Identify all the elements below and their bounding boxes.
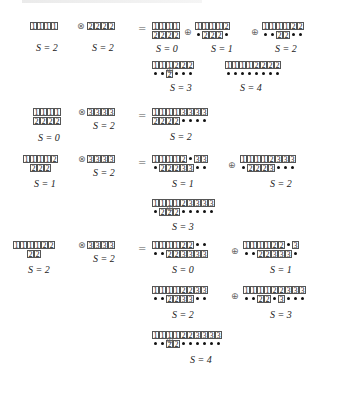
tableau-cell: 2 [173, 208, 180, 216]
direct-sum-symbol: ⊕ [184, 27, 192, 37]
tableau-cell: 3 [275, 155, 282, 163]
empty-dot [194, 295, 201, 303]
tableau-cell: 2 [261, 164, 268, 172]
tableau-cell: 1 [254, 155, 261, 163]
tableau-row: 11113333 [152, 108, 208, 117]
tableau-cell: 3 [194, 331, 201, 339]
tableau-row: 222 [152, 208, 215, 217]
empty-dot [201, 208, 208, 216]
tableau-cell: 3 [187, 199, 194, 207]
tableau-cell: 1 [247, 155, 254, 163]
tableau-cell: 2 [173, 250, 180, 258]
result-tableau: 111133332222 [152, 108, 208, 126]
tableau-cell: 1 [159, 241, 166, 249]
tableau-cell: 3 [268, 164, 275, 172]
tableau-cell: 3 [292, 241, 299, 249]
tableau-cell: 2 [33, 117, 40, 125]
empty-dot [180, 117, 187, 125]
tableau-cell: 2 [187, 61, 194, 69]
tableau-cell: 2 [44, 164, 51, 172]
tableau-cell: 1 [216, 22, 223, 30]
tableau-cell: 2 [260, 61, 267, 69]
tableau-cell: 1 [13, 241, 20, 249]
tableau-cell: 1 [246, 61, 253, 69]
tableau-cell: 1 [250, 286, 257, 294]
direct-sum-symbol: ⊕ [231, 246, 239, 256]
tableau-cell: 3 [201, 331, 208, 339]
tableau-row: 22 [152, 340, 222, 349]
tableau-cell: 2 [173, 117, 180, 125]
tableau-cell: 1 [152, 331, 159, 339]
tableau-row: 11112233 [152, 286, 208, 295]
tableau-cell: 2 [187, 241, 194, 249]
spin-label: S = 0 [172, 264, 194, 275]
tableau-row: 2222 [152, 31, 180, 40]
tableau-row: 2223 [240, 164, 296, 173]
empty-dot [232, 70, 239, 78]
lhs-tableau: 11112222 [13, 241, 55, 259]
lhs-tableau: 3333 [87, 108, 115, 117]
tableau-cell: 2 [34, 250, 41, 258]
tableau-cell: 1 [173, 22, 180, 30]
empty-dot [159, 295, 166, 303]
tableau-cell: 3 [187, 250, 194, 258]
empty-dot [194, 208, 201, 216]
direct-sum-symbol: ⊕ [231, 291, 239, 301]
lhs-tableau: 3333 [87, 155, 115, 164]
tableau-cell: 1 [44, 155, 51, 163]
tableau-cell: 2 [283, 31, 290, 39]
tableau-cell: 2 [276, 31, 283, 39]
tableau-cell: 2 [180, 241, 187, 249]
tableau-cell: 1 [166, 155, 173, 163]
tableau-row: 1111 [30, 22, 58, 31]
tableau-cell: 2 [202, 31, 209, 39]
empty-dot [201, 117, 208, 125]
lhs-tableau: 11112222 [33, 108, 61, 126]
tableau-row: 3333 [87, 241, 115, 250]
tableau-cell: 2 [27, 250, 34, 258]
tableau-cell: 3 [101, 155, 108, 163]
tableau-cell: 3 [180, 108, 187, 116]
tableau-cell: 3 [194, 199, 201, 207]
tableau-cell: 3 [215, 331, 222, 339]
tableau-cell: 2 [253, 61, 260, 69]
result-tableau: 111122332233 [152, 286, 208, 304]
tableau-cell: 1 [257, 241, 264, 249]
tableau-cell: 3 [94, 241, 101, 249]
blank-cell [13, 250, 20, 258]
tableau-row: 222 [23, 164, 58, 173]
empty-dot [180, 70, 187, 78]
tableau-cell: 2 [271, 286, 278, 294]
empty-dot [194, 241, 201, 249]
tableau-cell: 1 [159, 331, 166, 339]
tableau-cell: 2 [87, 22, 94, 30]
tableau-cell: 1 [243, 241, 250, 249]
spin-label: S = 2 [93, 167, 115, 178]
empty-dot [159, 340, 166, 348]
tableau-cell: 2 [180, 199, 187, 207]
tableau-row: 111123333 [152, 199, 215, 208]
tableau-cell: 2 [264, 250, 271, 258]
tableau-cell: 1 [257, 286, 264, 294]
tableau-cell: 2 [166, 117, 173, 125]
tableau-cell: 2 [268, 155, 275, 163]
tableau-cell: 1 [283, 22, 290, 30]
empty-dot [152, 295, 159, 303]
tableau-cell: 3 [194, 155, 201, 163]
direct-sum-symbol: ⊕ [166, 65, 174, 75]
tableau-cell: 1 [166, 108, 173, 116]
equals-sign: = [138, 110, 146, 121]
tableau-cell: 2 [173, 295, 180, 303]
empty-dot [262, 31, 269, 39]
tableau-cell: 1 [269, 22, 276, 30]
tableau-row: 111122 [13, 241, 55, 250]
tableau-row: 111122 [152, 241, 208, 250]
empty-dot [260, 70, 267, 78]
tableau-row: 223 [243, 295, 306, 304]
tableau-cell: 2 [30, 164, 37, 172]
tableau-cell: 2 [278, 286, 285, 294]
tableau-cell: 1 [159, 108, 166, 116]
result-tableau: 111122223333 [152, 241, 208, 259]
empty-dot [243, 295, 250, 303]
spin-label: S = 2 [92, 42, 114, 53]
